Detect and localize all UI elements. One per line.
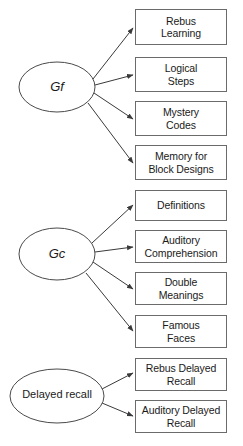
- arrow-gc-to-famous-faces: [86, 273, 133, 331]
- path-diagram: Rebus LearningLogical StepsMystery Codes…: [0, 0, 243, 446]
- latent-ellipse-delayed-recall[interactable]: [10, 369, 104, 423]
- indicator-box-auditory-delayed-recall[interactable]: Auditory Delayed Recall: [135, 400, 227, 433]
- arrow-gc-to-definitions: [92, 205, 133, 243]
- indicator-box-rebus-delayed-recall[interactable]: Rebus Delayed Recall: [135, 358, 227, 391]
- arrow-gc-to-auditory-comprehension: [95, 247, 133, 252]
- latent-ellipse-gc[interactable]: [19, 228, 95, 280]
- indicator-label-logical-steps: Logical Steps: [165, 62, 198, 87]
- indicator-box-logical-steps[interactable]: Logical Steps: [135, 57, 227, 92]
- indicator-label-rebus-learning: Rebus Learning: [161, 15, 201, 40]
- indicator-label-definitions: Definitions: [157, 199, 205, 212]
- indicator-label-double-meanings: Double Meanings: [159, 276, 204, 301]
- indicator-box-famous-faces[interactable]: Famous Faces: [135, 315, 227, 348]
- indicator-label-rebus-delayed-recall: Rebus Delayed Recall: [146, 362, 217, 387]
- arrow-gc-to-double-meanings: [93, 262, 133, 289]
- indicator-box-auditory-comprehension[interactable]: Auditory Comprehension: [135, 230, 227, 263]
- arrow-gf-to-rebus-learning: [93, 28, 133, 79]
- indicator-label-auditory-delayed-recall: Auditory Delayed Recall: [142, 404, 220, 429]
- arrow-gf-to-memory-for-block-designs: [88, 103, 133, 163]
- arrow-delayed-to-rebus-delayed-recall: [102, 373, 133, 389]
- indicator-label-auditory-comprehension: Auditory Comprehension: [145, 234, 218, 259]
- indicator-box-rebus-learning[interactable]: Rebus Learning: [135, 9, 227, 45]
- indicator-label-memory-for-block-designs: Memory for Block Designs: [148, 150, 213, 175]
- indicator-label-mystery-codes: Mystery Codes: [163, 106, 199, 131]
- arrow-delayed-to-auditory-delayed: [102, 403, 133, 416]
- latent-ellipse-gf[interactable]: [19, 62, 95, 112]
- ellipse-layer: [10, 62, 104, 423]
- arrow-gf-to-logical-steps: [95, 75, 133, 85]
- indicator-box-mystery-codes[interactable]: Mystery Codes: [135, 101, 227, 136]
- indicator-box-definitions[interactable]: Definitions: [135, 190, 227, 221]
- indicator-box-memory-for-block-designs[interactable]: Memory for Block Designs: [135, 145, 227, 180]
- indicator-label-famous-faces: Famous Faces: [162, 319, 199, 344]
- arrow-gf-to-mystery-codes: [94, 93, 133, 119]
- indicator-box-double-meanings[interactable]: Double Meanings: [135, 272, 227, 305]
